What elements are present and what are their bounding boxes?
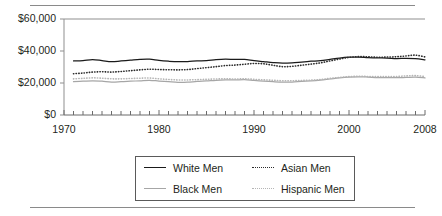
series-group (74, 55, 426, 82)
legend-item-hispanic-men[interactable]: Hispanic Men (244, 183, 356, 195)
x-tick-label: 1980 (137, 124, 181, 134)
chart-screenshot: $0$20,000$40,000$60,000 1970198019902000… (0, 0, 442, 216)
bottom-divider-rule (30, 207, 415, 208)
y-tick-label: $40,000 (0, 45, 56, 55)
x-tick-label: 1990 (232, 124, 276, 134)
legend-item-asian-men[interactable]: Asian Men (244, 162, 356, 174)
legend-swatch-icon (144, 164, 166, 172)
legend-item-label: Hispanic Men (281, 183, 345, 195)
legend-item-label: Asian Men (281, 162, 331, 174)
legend-grid: White MenAsian MenBlack MenHispanic Men (136, 157, 354, 200)
legend-item-black-men[interactable]: Black Men (136, 183, 244, 195)
y-tick-label: $20,000 (0, 77, 56, 87)
legend-item-label: Black Men (173, 183, 222, 195)
series-line-black-men (74, 77, 426, 83)
legend-swatch-icon (144, 185, 166, 193)
x-tick-label: 1970 (42, 124, 86, 134)
axis-group (60, 19, 425, 115)
x-tick-label: 2008 (403, 124, 442, 134)
chart-legend: White MenAsian MenBlack MenHispanic Men (135, 156, 355, 201)
y-tick-label: $60,000 (0, 13, 56, 23)
legend-swatch-icon (252, 164, 274, 172)
y-tick-label: $0 (0, 109, 56, 119)
legend-swatch-icon (252, 185, 274, 193)
legend-item-white-men[interactable]: White Men (136, 162, 244, 174)
legend-item-label: White Men (173, 162, 223, 174)
x-tick-label: 2000 (327, 124, 371, 134)
series-line-white-men (74, 57, 426, 63)
